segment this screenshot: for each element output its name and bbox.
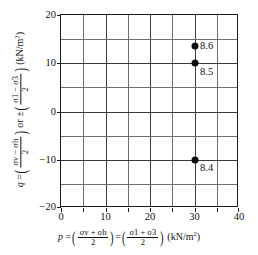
x-axis-fraction-1: σv + σh2 xyxy=(78,228,109,247)
y-axis-denominator-1: 2 xyxy=(22,137,31,168)
x-axis-denominator-2: 2 xyxy=(127,238,158,247)
gridline-vertical-p20 xyxy=(150,15,151,206)
gridline-horizontal-q10 xyxy=(61,63,237,64)
x-tick-15 xyxy=(128,208,129,212)
y-axis-units: (kN/m2) xyxy=(14,32,25,65)
gridline-horizontal-qm5 xyxy=(61,136,237,137)
x-tick-label-20: 20 xyxy=(137,211,163,222)
y-tick-label-m20: −20 xyxy=(30,201,56,212)
gridline-horizontal-qm15 xyxy=(61,184,237,185)
y-axis-fraction-2: σ1 − σ32 xyxy=(11,74,30,105)
x-axis-denominator-1: 2 xyxy=(78,238,109,247)
x-axis-paren-open-2: ( xyxy=(122,229,126,246)
plot-area: 8.6 8.5 8.4 0 10 20 30 40 20 10 0 −10 −2… xyxy=(60,14,238,207)
y-axis-paren-open-2: ( xyxy=(13,107,30,111)
x-tick-5 xyxy=(83,208,84,212)
y-axis-variable: q xyxy=(14,182,25,187)
y-axis-title: q =(σv − σh2) or ±(σ1 − σ32) (kN/m2) xyxy=(11,12,30,208)
y-tick-20 xyxy=(57,15,61,16)
y-axis-paren-close-2: ) xyxy=(13,68,30,72)
x-axis-equals-2: = xyxy=(115,231,121,242)
y-tick-0 xyxy=(57,112,61,113)
gridline-horizontal-qm10 xyxy=(61,160,237,161)
data-label-8-6: 8.6 xyxy=(200,40,213,51)
x-axis-paren-close-1: ) xyxy=(111,229,115,246)
x-axis-fraction-2: σ1 + σ32 xyxy=(127,228,158,247)
gridline-horizontal-q5 xyxy=(61,87,237,88)
data-point-8-4 xyxy=(191,156,198,163)
x-axis-paren-close-2: ) xyxy=(160,229,164,246)
y-tick-label-20: 20 xyxy=(30,9,56,20)
gridline-vertical-p25 xyxy=(172,15,173,206)
y-tick-m10 xyxy=(57,160,61,161)
y-tick-m20 xyxy=(57,207,61,208)
y-tick-label-m10: −10 xyxy=(30,154,56,165)
data-label-8-5: 8.5 xyxy=(200,66,213,77)
data-point-8-6 xyxy=(191,43,198,50)
x-axis-variable: p xyxy=(58,231,63,242)
y-tick-label-0: 0 xyxy=(30,106,56,117)
x-tick-label-0: 0 xyxy=(48,211,74,222)
x-tick-35 xyxy=(217,208,218,212)
x-tick-label-10: 10 xyxy=(93,211,119,222)
x-tick-label-40: 40 xyxy=(226,211,252,222)
x-axis-units: (kN/m2) xyxy=(167,231,200,242)
gridline-vertical-p15 xyxy=(128,15,129,206)
y-tick-10 xyxy=(57,63,61,64)
x-axis-title: p =(σv + σh2)=(σ1 + σ32) (kN/m2) xyxy=(0,228,258,247)
y-axis-equals-1: = xyxy=(14,174,25,180)
gridline-horizontal-q0 xyxy=(61,112,237,113)
y-axis-denominator-2: 2 xyxy=(22,74,31,105)
x-axis-paren-open-1: ( xyxy=(72,229,76,246)
x-tick-25 xyxy=(172,208,173,212)
y-tick-label-10: 10 xyxy=(30,57,56,68)
gridline-vertical-p35 xyxy=(217,15,218,206)
y-axis-paren-open-1: ( xyxy=(13,170,30,174)
x-tick-label-30: 30 xyxy=(182,211,208,222)
chart-figure: 8.6 8.5 8.4 0 10 20 30 40 20 10 0 −10 −2… xyxy=(0,0,258,255)
x-axis-equals-1: = xyxy=(65,231,71,242)
y-axis-fraction-1: σv − σh2 xyxy=(11,137,30,168)
y-axis-paren-close-1: ) xyxy=(13,131,30,135)
y-axis-conjunction: or ± xyxy=(14,111,25,127)
gridline-vertical-p5 xyxy=(83,15,84,206)
gridline-vertical-p10 xyxy=(106,15,107,206)
data-point-8-5 xyxy=(191,60,198,67)
data-label-8-4: 8.4 xyxy=(200,162,213,173)
